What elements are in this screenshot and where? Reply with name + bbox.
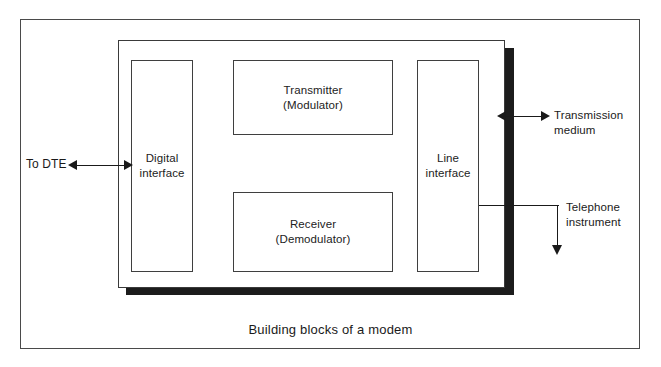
connector-to-dte-line bbox=[72, 165, 130, 166]
block-digital-interface-label-line2: interface bbox=[139, 166, 184, 181]
block-digital-interface-label-line1: Digital bbox=[146, 151, 179, 166]
figure-canvas: Digital interface Transmitter (Modulator… bbox=[0, 0, 661, 367]
label-to-dte: To DTE bbox=[26, 157, 67, 172]
arrow-down-icon bbox=[552, 245, 562, 255]
label-transmission-medium: Transmission medium bbox=[554, 108, 623, 138]
connector-telephone-instrument-vline bbox=[557, 205, 558, 249]
label-telephone-instrument: Telephone instrument bbox=[566, 200, 621, 230]
block-transmitter-label-line2: (Modulator) bbox=[283, 98, 343, 113]
arrow-right-icon bbox=[124, 160, 133, 170]
arrow-left-icon bbox=[68, 160, 77, 170]
block-transmitter-label-line1: Transmitter bbox=[284, 83, 343, 98]
arrow-left-icon bbox=[497, 111, 506, 121]
label-telephone-instrument-line1: Telephone bbox=[566, 201, 620, 213]
block-transmitter: Transmitter (Modulator) bbox=[233, 60, 393, 135]
label-transmission-medium-line1: Transmission bbox=[554, 109, 623, 121]
block-line-interface-label-line1: Line bbox=[437, 151, 459, 166]
block-receiver-label-line2: (Demodulator) bbox=[276, 232, 351, 247]
block-digital-interface: Digital interface bbox=[131, 60, 193, 272]
block-receiver: Receiver (Demodulator) bbox=[233, 192, 393, 272]
block-line-interface: Line interface bbox=[417, 60, 479, 272]
block-line-interface-label-line2: interface bbox=[425, 166, 470, 181]
figure-caption: Building blocks of a modem bbox=[0, 322, 661, 337]
label-telephone-instrument-line2: instrument bbox=[566, 216, 621, 228]
connector-transmission-medium-line bbox=[502, 116, 546, 117]
block-receiver-label-line1: Receiver bbox=[290, 217, 336, 232]
label-transmission-medium-line2: medium bbox=[554, 124, 596, 136]
arrow-right-icon bbox=[541, 111, 550, 121]
connector-telephone-instrument-hline bbox=[479, 205, 559, 206]
